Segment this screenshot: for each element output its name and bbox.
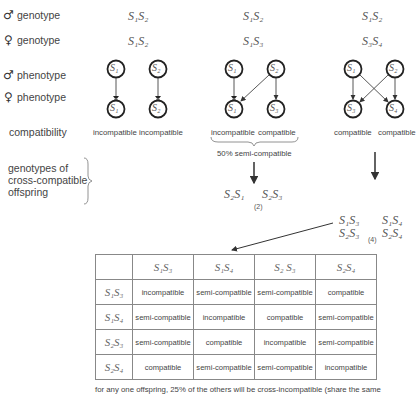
matrix-row: S₁S₄ semi-compatible incompatible compat… bbox=[96, 305, 377, 330]
node-s2: S₂ bbox=[152, 102, 160, 113]
compat-label: incompatible bbox=[93, 128, 137, 137]
col-header: S₁S₃ bbox=[133, 255, 194, 280]
matrix-row: S₂S₃ semi-compatible compatible incompat… bbox=[96, 330, 377, 355]
compat-label: compatible bbox=[258, 128, 296, 137]
matrix-cell: semi-compatible bbox=[133, 330, 194, 355]
compat-label: compatible bbox=[334, 128, 372, 137]
matrix-cell: compatible bbox=[194, 330, 255, 355]
node-s1: S₁ bbox=[228, 102, 236, 113]
node-s2: S₂ bbox=[270, 62, 278, 73]
semi-compatible-summary: 50% semi-compatible bbox=[217, 149, 292, 158]
matrix-cell: semi-compatible bbox=[194, 280, 255, 305]
matrix-cell: semi-compatible bbox=[316, 330, 377, 355]
row-header: S₂S₄ bbox=[96, 355, 133, 380]
offspring-genotype: S₂S₁ bbox=[224, 187, 244, 202]
matrix-cell: semi-compatible bbox=[255, 355, 316, 380]
matrix-cell: semi-compatible bbox=[194, 355, 255, 380]
node-s2: S₂ bbox=[389, 62, 397, 73]
node-s1: S₁ bbox=[110, 102, 118, 113]
node-s1: S₁ bbox=[228, 62, 236, 73]
matrix-cell: semi-compatible bbox=[133, 305, 194, 330]
offspring-count: (4) bbox=[368, 236, 377, 243]
footer-note: for any one offspring, 25% of the others… bbox=[95, 385, 381, 394]
matrix-header-row: S₁S₃ S₁S₄ S₂ S₃ S₂S₄ bbox=[96, 255, 377, 280]
row-header: S₂S₃ bbox=[96, 330, 133, 355]
node-s2: S₂ bbox=[152, 62, 160, 73]
col-header: S₂S₄ bbox=[316, 255, 377, 280]
matrix-cell: incompatible bbox=[194, 305, 255, 330]
matrix-corner bbox=[96, 255, 133, 280]
matrix-row: S₁S₃ incompatible semi-compatible semi-c… bbox=[96, 280, 377, 305]
matrix-cell: compatible bbox=[255, 305, 316, 330]
node-s4: S₄ bbox=[389, 102, 397, 113]
node-s1: S₁ bbox=[347, 62, 355, 73]
node-s3: S₃ bbox=[270, 102, 278, 113]
matrix-cell: compatible bbox=[316, 280, 377, 305]
node-s3: S₃ bbox=[347, 102, 355, 113]
compat-label: compatible bbox=[378, 128, 416, 137]
matrix-cell: incompatible bbox=[316, 355, 377, 380]
node-s1: S₁ bbox=[110, 62, 118, 73]
matrix-row: S₂S₄ compatible semi-compatible semi-com… bbox=[96, 355, 377, 380]
matrix-cell: incompatible bbox=[133, 280, 194, 305]
matrix-cell: compatible bbox=[133, 355, 194, 380]
offspring-genotype: S₂S₃ bbox=[262, 187, 282, 202]
matrix-cell: incompatible bbox=[255, 330, 316, 355]
row-header: S₁S₄ bbox=[96, 305, 133, 330]
offspring-count: (2) bbox=[254, 203, 263, 210]
compat-label: incompatible bbox=[139, 128, 183, 137]
compat-label: incompatible bbox=[211, 128, 255, 137]
compatibility-matrix: S₁S₃ S₁S₄ S₂ S₃ S₂S₄ S₁S₃ incompatible s… bbox=[95, 254, 377, 380]
offspring-genotype: S₂S₃ bbox=[339, 226, 359, 241]
col-header: S₂ S₃ bbox=[255, 255, 316, 280]
col-header: S₁S₄ bbox=[194, 255, 255, 280]
row-header: S₁S₃ bbox=[96, 280, 133, 305]
matrix-cell: semi-compatible bbox=[255, 280, 316, 305]
offspring-genotype: S₂S₄ bbox=[382, 226, 402, 241]
matrix-cell: semi-compatible bbox=[316, 305, 377, 330]
